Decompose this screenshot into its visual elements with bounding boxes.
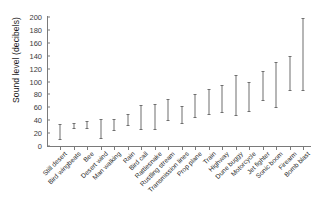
error-bar-cap xyxy=(113,130,116,131)
error-bar xyxy=(141,105,142,128)
error-bar-cap xyxy=(167,99,170,100)
y-tick-mark xyxy=(47,107,50,108)
error-bar-cap xyxy=(288,90,291,91)
error-bar-cap xyxy=(59,139,62,140)
x-tick-mark xyxy=(114,147,115,150)
y-tick-label: 200 xyxy=(0,13,46,22)
error-bar-cap xyxy=(72,123,75,124)
error-bar-cap xyxy=(261,100,264,101)
y-tick-mark xyxy=(47,17,50,18)
error-bar-cap xyxy=(86,121,89,122)
error-bar-cap xyxy=(140,129,143,130)
error-bar-cap xyxy=(207,114,210,115)
error-bar xyxy=(235,75,236,115)
x-tick-mark xyxy=(168,147,169,150)
error-bar-cap xyxy=(248,82,251,83)
error-bar-cap xyxy=(248,111,251,112)
y-tick-label: 160 xyxy=(0,38,46,47)
error-bar xyxy=(127,114,128,126)
x-tick-mark xyxy=(290,147,291,150)
y-tick-label: 180 xyxy=(0,25,46,34)
error-bar-cap xyxy=(126,125,129,126)
error-bar-cap xyxy=(140,105,143,106)
error-bar xyxy=(222,85,223,112)
error-bar xyxy=(114,119,115,130)
error-bar-cap xyxy=(261,71,264,72)
y-tick-label: 120 xyxy=(0,64,46,73)
error-bar xyxy=(262,71,263,100)
y-tick-mark xyxy=(47,120,50,121)
x-tick-mark xyxy=(209,147,210,150)
error-bar-cap xyxy=(221,85,224,86)
error-bar xyxy=(168,99,169,120)
x-tick-mark xyxy=(195,147,196,150)
error-bar-cap xyxy=(153,104,156,105)
error-bar-cap xyxy=(275,62,278,63)
error-bar-cap xyxy=(194,117,197,118)
x-tick-mark xyxy=(101,147,102,150)
error-bar xyxy=(249,82,250,111)
error-bar-cap xyxy=(194,94,197,95)
y-tick-mark xyxy=(47,42,50,43)
chart-container: Sound level (decibels) 02040608010012014… xyxy=(0,0,316,207)
x-tick-mark xyxy=(303,147,304,150)
error-bar-cap xyxy=(99,138,102,139)
error-bar-cap xyxy=(234,75,237,76)
error-bar-cap xyxy=(207,89,210,90)
error-bar xyxy=(276,62,277,108)
error-bar-cap xyxy=(221,112,224,113)
error-bar xyxy=(60,124,61,139)
y-tick-label: 40 xyxy=(0,116,46,125)
error-bar-cap xyxy=(126,114,129,115)
y-tick-mark xyxy=(47,146,50,147)
y-tick-label: 80 xyxy=(0,90,46,99)
x-tick-mark xyxy=(236,147,237,150)
error-bar-cap xyxy=(302,90,305,91)
error-bar xyxy=(208,89,209,114)
error-bar xyxy=(100,119,101,138)
y-tick-label: 0 xyxy=(0,142,46,151)
error-bar-cap xyxy=(59,124,62,125)
x-tick-mark xyxy=(141,147,142,150)
error-bar-cap xyxy=(72,128,75,129)
y-tick-mark xyxy=(47,29,50,30)
error-bar-cap xyxy=(167,120,170,121)
error-bar xyxy=(195,94,196,117)
x-tick-mark xyxy=(87,147,88,150)
x-tick-mark xyxy=(263,147,264,150)
error-bar-cap xyxy=(275,107,278,108)
error-bar-cap xyxy=(99,119,102,120)
error-bar-cap xyxy=(288,56,291,57)
y-tick-mark xyxy=(47,55,50,56)
x-tick-mark xyxy=(249,147,250,150)
error-bar-cap xyxy=(153,129,156,130)
y-tick-label: 140 xyxy=(0,51,46,60)
error-bar xyxy=(303,18,304,90)
error-bar-cap xyxy=(180,106,183,107)
error-bar xyxy=(289,56,290,90)
x-tick-mark xyxy=(155,147,156,150)
x-tick-mark xyxy=(276,147,277,150)
y-tick-label: 60 xyxy=(0,103,46,112)
y-tick-mark xyxy=(47,94,50,95)
y-tick-mark xyxy=(47,68,50,69)
error-bar-cap xyxy=(180,123,183,124)
error-bar-cap xyxy=(234,115,237,116)
error-bar xyxy=(154,104,155,129)
y-tick-mark xyxy=(47,81,50,82)
error-bar-cap xyxy=(86,128,89,129)
x-tick-mark xyxy=(182,147,183,150)
y-tick-label: 100 xyxy=(0,77,46,86)
x-tick-mark xyxy=(60,147,61,150)
error-bar-cap xyxy=(302,18,305,19)
y-tick-label: 20 xyxy=(0,129,46,138)
x-tick-mark xyxy=(74,147,75,150)
x-tick-mark xyxy=(222,147,223,150)
x-tick-mark xyxy=(128,147,129,150)
error-bar xyxy=(181,106,182,123)
y-tick-mark xyxy=(47,133,50,134)
error-bar-cap xyxy=(113,119,116,120)
